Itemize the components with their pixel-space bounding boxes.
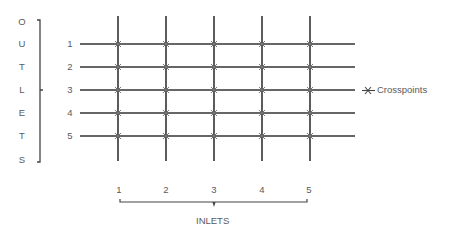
outlet-number: 4 — [64, 108, 76, 118]
inlets-brace — [120, 199, 307, 205]
inlet-number: 2 — [160, 185, 172, 195]
inlet-number: 1 — [113, 185, 125, 195]
outlets-bracket — [37, 20, 43, 162]
outlet-number: 1 — [64, 39, 76, 49]
outlet-number: 3 — [64, 85, 76, 95]
outlets-letter: U — [15, 39, 29, 49]
outlets-letter: O — [15, 17, 29, 27]
legend-crosspoint-icon — [362, 87, 375, 94]
inlet-number: 5 — [303, 185, 315, 195]
outlet-lines — [80, 44, 355, 136]
outlets-letter: T — [15, 62, 29, 72]
crosspoints-legend-label: Crosspoints — [377, 85, 427, 95]
outlet-number: 2 — [64, 62, 76, 72]
outlets-letter: L — [15, 85, 29, 95]
outlets-letter: T — [15, 131, 29, 141]
outlets-letter: E — [15, 108, 29, 118]
inlets-label: INLETS — [196, 216, 229, 226]
inlet-lines — [118, 16, 310, 161]
inlet-number: 4 — [256, 185, 268, 195]
inlet-number: 3 — [208, 185, 220, 195]
outlets-letter: S — [15, 155, 29, 165]
outlet-number: 5 — [64, 131, 76, 141]
